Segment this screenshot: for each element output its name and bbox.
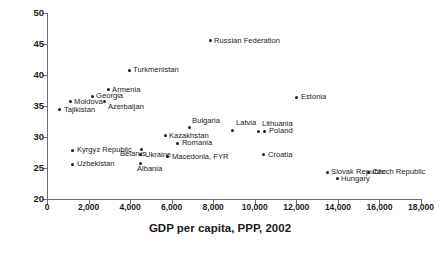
data-point — [231, 129, 234, 132]
data-point-label: Macedonia, FYR — [172, 153, 229, 161]
data-point — [257, 130, 260, 133]
data-point-label: Hungary — [341, 175, 370, 183]
data-point-label: Uzbekistan — [77, 160, 115, 168]
y-tick-label: 45 — [14, 39, 44, 49]
y-tick-label: 30 — [14, 132, 44, 142]
y-tick-label: 35 — [14, 101, 44, 111]
data-point-label: Czech Republic — [372, 168, 425, 176]
data-point-label: Turkmenistan — [133, 66, 179, 74]
data-point-label: Tajikistan — [64, 106, 95, 114]
data-point — [176, 142, 179, 145]
data-point-label: Latvia — [236, 119, 256, 127]
x-tick-label: 18,000 — [391, 203, 440, 212]
data-point-label: Poland — [269, 127, 293, 135]
x-axis-line — [47, 199, 422, 200]
scatter-chart: 20253035404550 02,0004,0006,0008,00010,0… — [0, 0, 440, 259]
data-point-label: Estonia — [301, 93, 326, 101]
x-axis-title: GDP per capita, PPP, 2002 — [0, 222, 440, 234]
data-point-label: Azerbaijan — [108, 103, 144, 111]
data-point — [69, 100, 72, 103]
y-axis-title: Gini — [0, 91, 1, 112]
data-point — [295, 96, 298, 99]
y-tick-label: 25 — [14, 163, 44, 173]
y-tick-label: 40 — [14, 70, 44, 80]
data-point — [188, 126, 191, 129]
plot-area: Russian FederationTurkmenistanArmeniaGeo… — [47, 13, 421, 199]
data-point-label: Croatia — [268, 151, 292, 159]
data-point — [164, 134, 167, 137]
data-point — [263, 130, 266, 133]
data-point-label: Albania — [137, 165, 162, 173]
data-point-label: Romania — [182, 139, 212, 147]
data-point-label: Russian Federation — [214, 37, 280, 45]
data-point — [71, 163, 74, 166]
data-point — [71, 149, 74, 152]
data-point-label: Kyrgyz Republic — [77, 146, 132, 154]
data-point — [336, 177, 339, 180]
data-point — [128, 69, 131, 72]
data-point-label: Bulgaria — [192, 117, 220, 125]
data-point — [262, 153, 265, 156]
y-tick-label: 50 — [14, 8, 44, 18]
data-point — [209, 39, 212, 42]
data-point — [58, 108, 61, 111]
data-point — [326, 171, 329, 174]
